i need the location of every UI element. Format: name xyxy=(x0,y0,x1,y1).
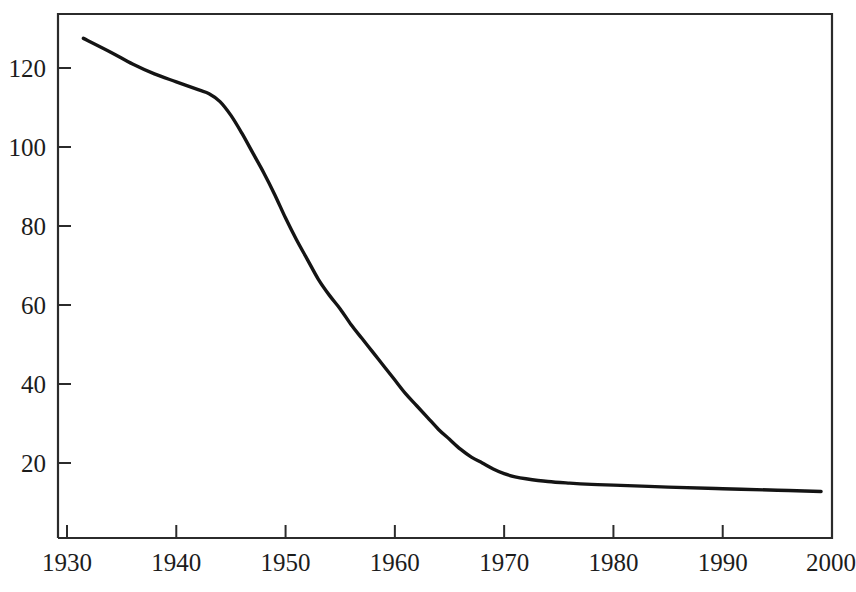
y-tick-label-20: 20 xyxy=(21,450,46,477)
y-tick-label-60: 60 xyxy=(21,292,46,319)
x-tick-label-2000: 2000 xyxy=(806,549,856,576)
y-tick-label-80: 80 xyxy=(21,213,46,240)
line-chart: 19301940195019601970198019902000 2040608… xyxy=(0,0,856,592)
x-tick-label-1980: 1980 xyxy=(588,549,638,576)
chart-background xyxy=(0,0,856,592)
x-tick-label-1990: 1990 xyxy=(698,549,748,576)
x-tick-label-1970: 1970 xyxy=(479,549,529,576)
x-tick-label-1940: 1940 xyxy=(151,549,201,576)
x-tick-label-1950: 1950 xyxy=(261,549,311,576)
y-tick-label-40: 40 xyxy=(21,371,46,398)
x-tick-label-1930: 1930 xyxy=(42,549,92,576)
chart-container: 19301940195019601970198019902000 2040608… xyxy=(0,0,856,592)
y-tick-label-120: 120 xyxy=(9,55,47,82)
x-tick-label-1960: 1960 xyxy=(370,549,420,576)
y-tick-label-100: 100 xyxy=(9,134,47,161)
